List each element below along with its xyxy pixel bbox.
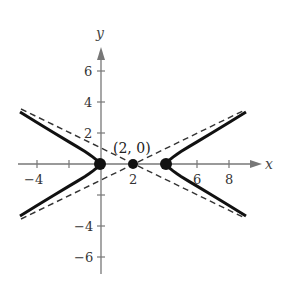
hyperbola-plot: y x 6 4 2 −4 −6 −4 2 6 8 (2, 0) (0, 0, 286, 289)
vertex-left-point (94, 158, 106, 170)
x-axis-label: x (265, 156, 273, 172)
x-tick-8: 8 (225, 172, 233, 187)
x-tick-6: 6 (193, 172, 201, 187)
y-tick-6: 6 (84, 64, 92, 79)
center-point (128, 159, 138, 169)
vertex-right-point (160, 158, 172, 170)
y-tick-neg6: −6 (74, 250, 93, 265)
y-axis-arrow-icon (97, 47, 105, 60)
y-tick-2: 2 (84, 126, 92, 141)
x-axis-arrow-icon (250, 160, 262, 168)
x-tick-neg4: −4 (24, 172, 43, 187)
y-tick-neg4: −4 (74, 219, 93, 234)
center-point-label: (2, 0) (113, 140, 151, 156)
y-axis-label: y (95, 25, 105, 41)
y-tick-4: 4 (84, 95, 92, 110)
x-tick-2: 2 (129, 172, 137, 187)
